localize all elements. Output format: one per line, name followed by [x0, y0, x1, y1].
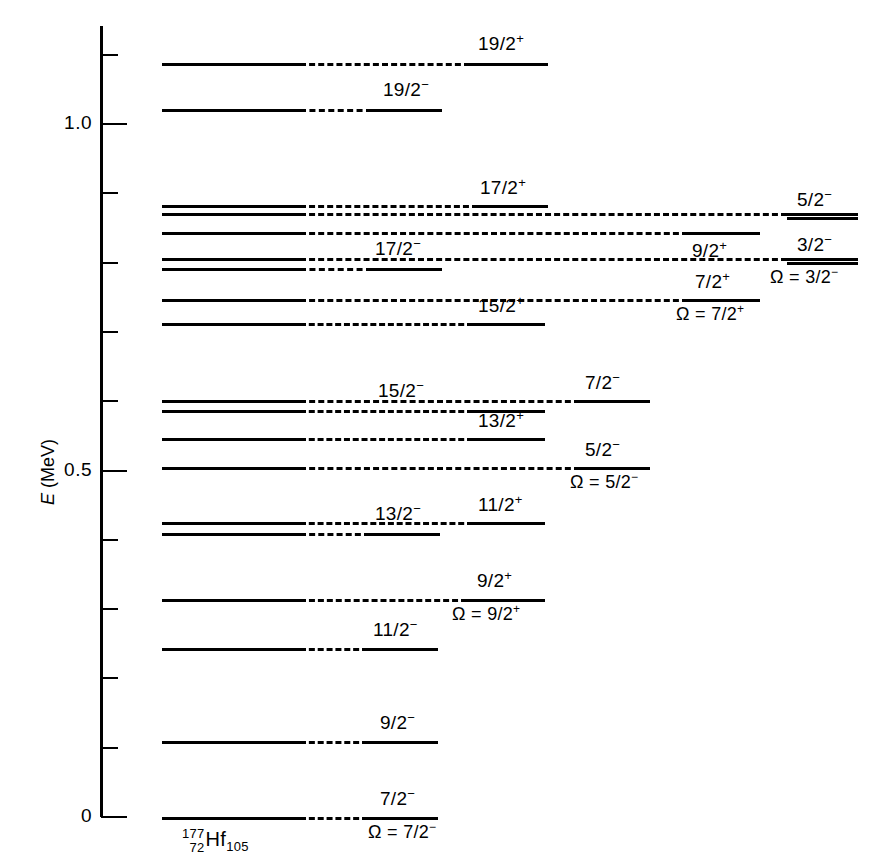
level-spin-label: 5/2−	[585, 439, 620, 461]
level-line-solid-right	[580, 467, 650, 470]
level-line-solid-right	[372, 268, 442, 271]
level-line-solid-left	[162, 599, 300, 602]
y-axis-tick-minor	[101, 192, 118, 194]
parity-sign: +	[515, 492, 523, 507]
level-line-solid-right	[368, 817, 438, 820]
level-line-dashed	[300, 232, 688, 235]
level-line-dashed	[300, 533, 370, 536]
omega-7-2-minus: Ω = 7/2−	[368, 822, 436, 843]
parity-sign: −	[416, 378, 424, 393]
level-line-dashed	[300, 258, 787, 261]
level-spin-label: 7/2−	[585, 372, 620, 394]
y-axis-tick-minor	[101, 677, 118, 679]
parity-sign: −	[631, 470, 638, 484]
level-line-dashed	[300, 410, 473, 413]
y-axis-tick-major	[101, 470, 127, 472]
level-spin-label: 7/2+	[695, 271, 730, 293]
level-spin-label: 9/2+	[477, 570, 512, 592]
level-line-dashed	[300, 467, 580, 470]
spin-value: 7/2	[585, 372, 612, 393]
level-line-solid-left	[162, 533, 300, 536]
level-line-solid-right	[688, 299, 760, 302]
level-line-solid-left	[162, 467, 300, 470]
level-line-solid-left	[162, 213, 300, 216]
isotope-label: 17772Hf105	[182, 827, 249, 854]
level-line-dashed	[300, 109, 372, 112]
parity-sign: −	[413, 236, 421, 251]
parity-sign: +	[737, 302, 744, 316]
omega-text: Ω = 3/2	[770, 267, 831, 287]
level-line-solid-left	[162, 741, 300, 744]
level-line-solid-right	[473, 323, 545, 326]
parity-sign: −	[824, 187, 832, 202]
y-axis-tick-minor	[101, 262, 118, 264]
spin-value: 15/2	[378, 380, 416, 401]
level-line-solid-left	[162, 648, 300, 651]
level-line-solid-left	[162, 400, 300, 403]
level-line-solid-right	[787, 262, 858, 265]
level-line-solid-right	[688, 232, 760, 235]
omega-text: Ω = 7/2	[368, 822, 429, 842]
level-spin-label: 7/2−	[380, 788, 415, 810]
level-line-solid-right	[467, 599, 545, 602]
isotope-neutron-number: 105	[226, 839, 249, 854]
y-axis-tick-minor	[101, 747, 118, 749]
level-line-solid-left	[162, 299, 300, 302]
y-axis-tick-major	[101, 816, 127, 818]
level-line-solid-left	[162, 817, 300, 820]
parity-sign: −	[407, 710, 415, 725]
level-line-dashed	[300, 438, 473, 441]
y-axis-line	[100, 26, 103, 817]
spin-value: 5/2	[797, 189, 824, 210]
parity-sign: −	[831, 265, 838, 279]
parity-sign: −	[407, 786, 415, 801]
level-spin-label: 13/2−	[375, 503, 421, 525]
y-axis-tick-minor	[101, 539, 118, 541]
level-line-solid-right	[473, 438, 545, 441]
parity-sign: +	[722, 269, 730, 284]
level-spin-label: 15/2−	[378, 380, 424, 402]
omega-3-2-minus: Ω = 3/2−	[770, 267, 838, 288]
parity-sign: −	[824, 232, 832, 247]
parity-sign: +	[516, 408, 524, 423]
spin-value: 7/2	[695, 271, 722, 292]
parity-sign: +	[516, 293, 524, 308]
spin-value: 13/2	[375, 503, 413, 524]
level-line-solid-right	[787, 258, 858, 261]
spin-value: 9/2	[477, 570, 504, 591]
y-axis-tick-minor	[101, 400, 118, 402]
level-line-dashed	[300, 323, 473, 326]
level-spin-label: 13/2+	[478, 410, 524, 432]
level-spin-label: 5/2−	[797, 189, 832, 211]
level-line-solid-right	[372, 109, 442, 112]
level-line-solid-right	[478, 205, 548, 208]
level-line-solid-right	[368, 648, 438, 651]
y-axis-tick-minor	[101, 331, 118, 333]
omega-5-2-minus: Ω = 5/2−	[570, 472, 638, 493]
omega-text: Ω = 5/2	[570, 472, 631, 492]
level-line-dashed	[300, 817, 368, 820]
level-line-solid-left	[162, 323, 300, 326]
spin-value: 7/2	[380, 788, 407, 809]
spin-value: 17/2	[480, 177, 518, 198]
spin-value: 19/2	[383, 79, 421, 100]
spin-value: 13/2	[478, 410, 516, 431]
parity-sign: −	[410, 617, 418, 632]
spin-value: 17/2	[375, 238, 413, 259]
level-spin-label: 3/2−	[797, 234, 832, 256]
parity-sign: +	[513, 602, 520, 616]
spin-value: 19/2	[478, 33, 516, 54]
level-line-solid-right	[787, 217, 858, 220]
level-line-dashed	[300, 268, 372, 271]
level-line-solid-left	[162, 109, 300, 112]
y-axis-tick-major	[101, 123, 127, 125]
omega-text: Ω = 7/2	[676, 304, 737, 324]
isotope-mass-number: 177	[182, 827, 205, 841]
level-spin-label: 17/2−	[375, 238, 421, 260]
spin-value: 5/2	[585, 439, 612, 460]
level-spin-label: 19/2−	[383, 79, 429, 101]
y-axis-tick-minor	[101, 608, 118, 610]
parity-sign: +	[516, 31, 524, 46]
isotope-mass-charge: 17772	[182, 827, 205, 854]
omega-text: Ω = 9/2	[452, 604, 513, 624]
